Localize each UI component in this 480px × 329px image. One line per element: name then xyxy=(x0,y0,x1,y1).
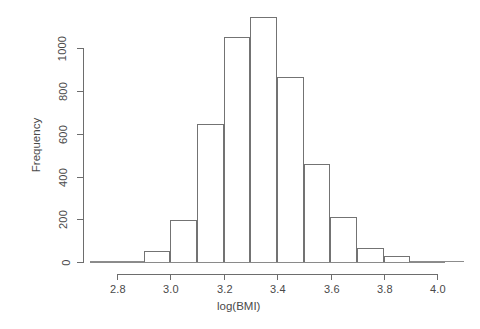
histogram-bar xyxy=(224,37,251,262)
histogram-bars xyxy=(0,0,480,329)
histogram-bar xyxy=(170,220,197,262)
histogram-bar xyxy=(197,124,224,262)
histogram-bar xyxy=(357,248,384,262)
histogram-bar xyxy=(304,164,331,262)
histogram-bar xyxy=(277,77,304,262)
histogram-plot: 0 200 400 600 800 1000 Frequency 2.8 3.0… xyxy=(0,0,480,329)
histogram-bar xyxy=(144,251,171,262)
histogram-bar xyxy=(330,217,357,262)
histogram-baseline xyxy=(90,262,445,263)
histogram-bar xyxy=(250,17,277,262)
